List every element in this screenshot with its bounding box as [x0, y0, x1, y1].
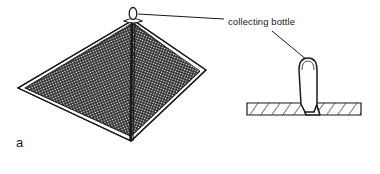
fabric-band-left [247, 103, 306, 115]
collecting-bottle-section [299, 58, 317, 112]
figure-container: collecting bottle a [0, 0, 380, 174]
panel-letter-a: a [16, 135, 24, 150]
figure-illustration: collecting bottle a [0, 0, 380, 174]
fabric-band-right [316, 103, 361, 115]
collecting-bottle-apex [129, 8, 137, 20]
pyramid-center-ridge [131, 22, 133, 141]
collecting-bottle-label: collecting bottle [228, 16, 295, 27]
